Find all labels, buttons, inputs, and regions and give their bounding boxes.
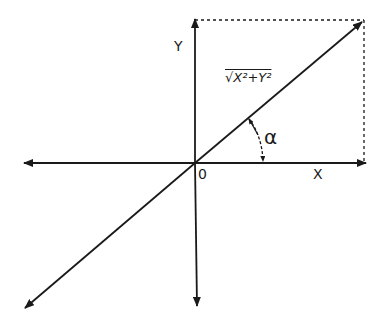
x-axis-label: X — [313, 166, 323, 182]
hypotenuse-label: √X²+Y² — [225, 70, 271, 85]
origin-label: 0 — [198, 166, 207, 182]
diagram-canvas — [0, 0, 391, 325]
vector-diagram: Y X 0 √X²+Y² α — [0, 0, 391, 325]
y-axis-negative — [195, 163, 197, 306]
y-axis-label: Y — [174, 38, 183, 54]
angle-arc-start — [249, 119, 258, 135]
vector-line — [195, 22, 362, 163]
angle-arc — [249, 119, 263, 161]
vector-line-negative — [25, 163, 195, 308]
angle-label: α — [264, 125, 277, 149]
